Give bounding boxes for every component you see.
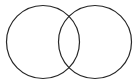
venn-circle-right bbox=[59, 6, 132, 79]
venn-diagram-canvas bbox=[0, 0, 138, 84]
venn-diagram-figure bbox=[0, 0, 138, 84]
